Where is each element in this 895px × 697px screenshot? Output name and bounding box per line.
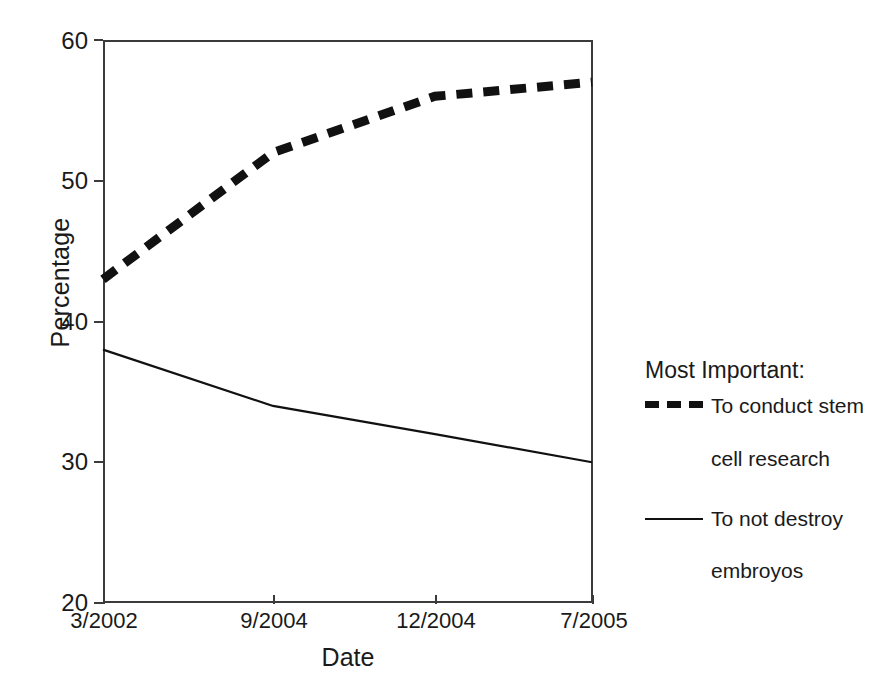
y-axis-tick-50: [94, 180, 103, 182]
y-axis-tick-60: [94, 39, 103, 41]
y-axis-tick-30: [94, 461, 103, 463]
chart-figure: Percentage 60 50 40 30 20 3/2002 9/2004 …: [0, 0, 895, 697]
legend-label-stem-cell-research-line2: cell research: [711, 445, 893, 473]
legend-dashed-line-icon: [645, 401, 703, 416]
x-axis-tick-label-3-2002: 3/2002: [34, 610, 174, 632]
y-axis-tick-label-30: 30: [24, 450, 88, 474]
legend-entry-stem-cell-research: To conduct stem cell research: [645, 392, 893, 473]
x-axis-tick-label-7-2005: 7/2005: [524, 610, 664, 632]
series-line-not-destroy-embryos: [103, 350, 592, 463]
y-axis-tick-label-60: 60: [24, 29, 88, 53]
y-axis-tick-20: [94, 602, 103, 604]
x-axis-tick-label-12-2004: 12/2004: [366, 610, 506, 632]
legend-label-not-destroy-embryos-line2: embroyos: [711, 557, 893, 585]
legend-entry-not-destroy-embryos: To not destroy embroyos: [645, 505, 893, 586]
y-axis-tick-40: [94, 321, 103, 323]
series-line-stem-cell-research: [103, 82, 592, 279]
legend-solid-line-icon: [645, 518, 703, 528]
y-axis-tick-label-40: 40: [24, 310, 88, 334]
y-axis-title: Percentage: [46, 183, 75, 383]
chart-legend: Most Important: To conduct stem cell res…: [645, 357, 893, 588]
legend-label-stem-cell-research-line1: To conduct stem: [711, 392, 893, 420]
series-layer: [103, 40, 593, 603]
x-axis-title: Date: [103, 643, 593, 672]
legend-title: Most Important:: [645, 357, 893, 383]
y-axis-tick-label-50: 50: [24, 169, 88, 193]
x-axis-tick-label-9-2004: 9/2004: [204, 610, 344, 632]
legend-label-not-destroy-embryos-line1: To not destroy: [711, 505, 893, 533]
legend-spacer: [645, 475, 893, 505]
